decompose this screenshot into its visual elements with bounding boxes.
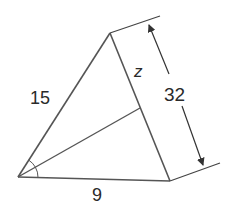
side-ac <box>18 177 170 181</box>
extension-line-top <box>110 16 160 33</box>
triangle-diagram: 15 9 z 32 <box>0 0 235 213</box>
angle-bisector <box>18 108 140 177</box>
dimension-arrow-top <box>149 25 169 74</box>
angle-arc-lower <box>35 167 38 177</box>
label-side-ab: 15 <box>30 88 50 108</box>
label-segment-z: z <box>133 62 143 81</box>
angle-arc-upper <box>29 160 36 167</box>
label-dimension-bc: 32 <box>164 84 185 105</box>
label-side-ac: 9 <box>92 185 102 205</box>
extension-line-bottom <box>170 163 220 181</box>
dimension-arrow-bottom <box>182 106 203 165</box>
